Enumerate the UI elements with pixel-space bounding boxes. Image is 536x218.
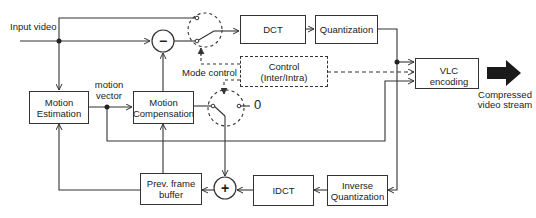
quantization-block: Quantization [315, 15, 378, 44]
me-label-line2: Estimation [37, 108, 81, 119]
pfb-label-line2: buffer [159, 189, 183, 200]
prev-frame-buffer-block: Prev. frame buffer [140, 173, 202, 205]
idct-block: IDCT [253, 175, 314, 206]
switch1-blade [197, 31, 214, 41]
motion-vector-label-line2: vector [93, 90, 125, 101]
mode-switch-2 [208, 90, 244, 126]
quant-to-iq-line [377, 29, 397, 190]
idct-label: IDCT [272, 185, 294, 196]
subtract-symbol: − [156, 33, 170, 49]
dct-block: DCT [240, 15, 306, 44]
input-video-label: Input video [10, 21, 56, 32]
control-block: Control (Inter/Intra) [240, 56, 328, 87]
quant-junction-dot [395, 60, 400, 65]
input-junction-dot [57, 39, 62, 44]
mode-switch-1 [188, 13, 222, 47]
motion-vector-junction-dot [105, 105, 110, 110]
pfb-label-line1: Prev. frame [147, 178, 195, 189]
dct-label: DCT [263, 24, 283, 35]
zero-input-label: 0 [254, 98, 261, 112]
control-label-line2: (Inter/Intra) [261, 72, 308, 83]
motion-estimation-block: Motion Estimation [29, 91, 89, 124]
output-arrow-icon [487, 60, 521, 86]
input-to-switch1-line [59, 18, 195, 41]
iq-label-line1: Inverse [342, 180, 373, 191]
quantization-label: Quantization [320, 24, 373, 35]
motion-compensation-block: Motion Compensation [133, 91, 194, 124]
mc-label-line1: Motion [149, 97, 178, 108]
iq-label-line2: Quantization [331, 191, 384, 202]
control-label-line1: Control [269, 61, 300, 72]
output-label-line2: video stream [470, 99, 536, 110]
motion-vector-label-line1: motion [93, 79, 125, 90]
me-label-line1: Motion [45, 97, 74, 108]
mode-control-label: Mode control [182, 67, 237, 78]
inverse-quantization-block: Inverse Quantization [327, 175, 388, 206]
vlc-encoding-block: VLC encoding [415, 58, 479, 89]
mc-label-line2: Compensation [133, 108, 194, 119]
vlc-label: VLC encoding [420, 65, 478, 87]
add-symbol: + [218, 180, 232, 196]
